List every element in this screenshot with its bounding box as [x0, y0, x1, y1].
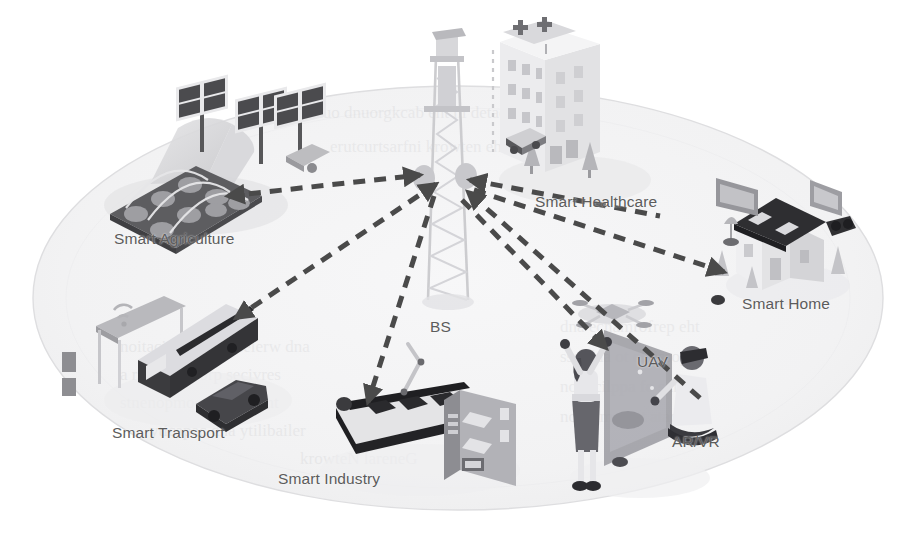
label-ar-vr: AR/VR — [672, 433, 720, 451]
label-base-station: BS — [430, 318, 451, 336]
label-uav: UAV — [637, 353, 668, 371]
label-smart-home: Smart Home — [742, 295, 830, 313]
label-smart-transport: Smart Transport — [112, 424, 225, 442]
figure-canvas: tuo dnuorgkcab eht ni detacol erutcurtsa… — [0, 0, 909, 546]
label-smart-agriculture: Smart Agriculture — [114, 230, 235, 248]
control-panel-icon — [444, 390, 516, 486]
label-smart-healthcare: Smart Healthcare — [535, 193, 657, 211]
scene-illustration: tuo dnuorgkcab eht ni detacol erutcurtsa… — [0, 0, 909, 546]
svg-text:tuo dnuorgkcab eht ni detacol: tuo dnuorgkcab eht ni detacol — [318, 103, 520, 122]
label-smart-industry: Smart Industry — [278, 470, 380, 488]
svg-text:erutcurtsarfni krowten eht: erutcurtsarfni krowten eht — [330, 137, 507, 156]
panel-text-block — [448, 414, 458, 434]
